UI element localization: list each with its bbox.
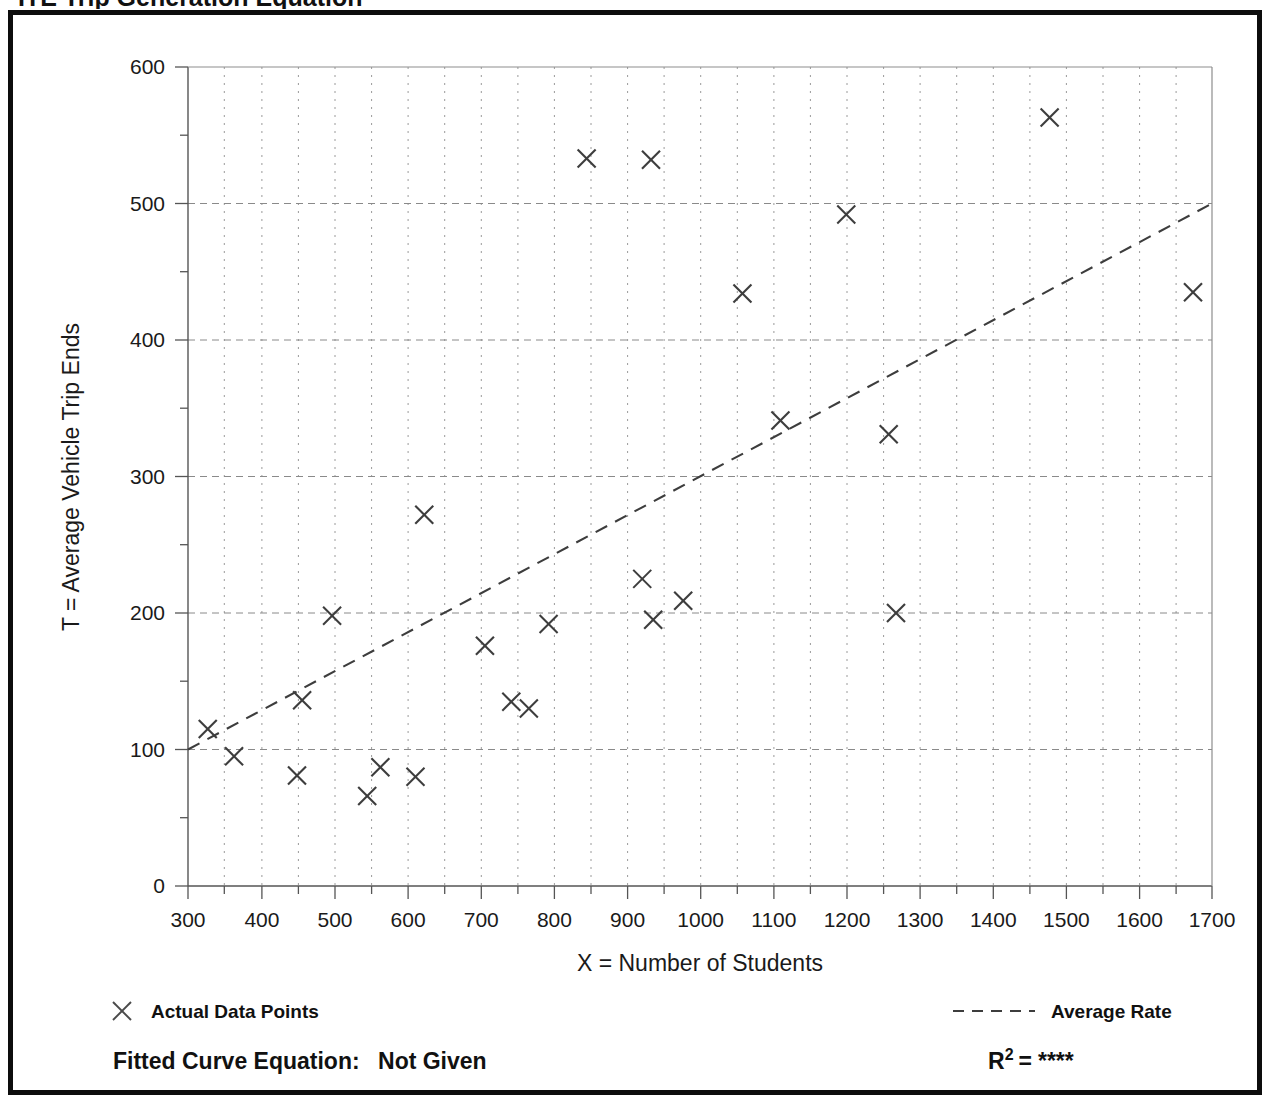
y-axis-title: T = Average Vehicle Trip Ends bbox=[58, 323, 84, 631]
x-tick-label: 800 bbox=[537, 908, 572, 931]
x-tick-label: 300 bbox=[170, 908, 205, 931]
fitted-curve-equation: Fitted Curve Equation: Not Given bbox=[113, 1048, 487, 1074]
r-squared-symbol: R bbox=[988, 1048, 1005, 1074]
x-tick-label: 600 bbox=[391, 908, 426, 931]
x-tick-label: 1600 bbox=[1116, 908, 1163, 931]
y-axis-ticks bbox=[175, 67, 188, 886]
x-tick-label: 1700 bbox=[1189, 908, 1236, 931]
fitted-curve-label: Fitted Curve Equation: bbox=[113, 1048, 360, 1074]
y-tick-label: 300 bbox=[130, 465, 165, 488]
clipped-page-heading: ITE Trip Generation Equation bbox=[18, 0, 618, 9]
x-tick-label: 1500 bbox=[1043, 908, 1090, 931]
x-tick-label: 1000 bbox=[677, 908, 724, 931]
x-tick-label: 1200 bbox=[824, 908, 871, 931]
y-tick-label: 0 bbox=[153, 874, 165, 897]
y-tick-label: 500 bbox=[130, 192, 165, 215]
legend-label-actual-data-points: Actual Data Points bbox=[151, 1001, 319, 1022]
y-tick-label: 100 bbox=[130, 738, 165, 761]
r-squared-stars: **** bbox=[1038, 1048, 1074, 1074]
x-tick-label: 700 bbox=[464, 908, 499, 931]
scatter-plot-svg: 600 500 400 300 200 100 0 bbox=[13, 15, 1267, 1100]
y-tick-label: 200 bbox=[130, 601, 165, 624]
fitted-curve-value: Not Given bbox=[378, 1048, 487, 1074]
y-axis-tick-labels: 600 500 400 300 200 100 0 bbox=[130, 55, 165, 897]
x-axis-title: X = Number of Students bbox=[577, 950, 823, 976]
x-tick-label: 1300 bbox=[897, 908, 944, 931]
x-tick-label: 900 bbox=[610, 908, 645, 931]
r-squared-exponent: 2 bbox=[1005, 1046, 1014, 1063]
x-tick-label: 1400 bbox=[970, 908, 1017, 931]
x-tick-label: 1100 bbox=[751, 908, 796, 931]
chart-canvas: 600 500 400 300 200 100 0 bbox=[13, 15, 1267, 1100]
footer: Fitted Curve Equation: Not Given R2=**** bbox=[113, 1046, 1074, 1074]
legend-label-average-rate: Average Rate bbox=[1051, 1001, 1172, 1022]
y-tick-label: 400 bbox=[130, 328, 165, 351]
r-squared-equals: = bbox=[1019, 1048, 1032, 1074]
x-axis-tick-labels: 300 400 500 600 700 800 900 1000 1100 12… bbox=[170, 908, 1235, 931]
x-marker-icon bbox=[113, 1002, 131, 1020]
r-squared-value: R2=**** bbox=[988, 1046, 1074, 1074]
legend: Actual Data Points Average Rate bbox=[113, 1001, 1172, 1022]
x-tick-label: 500 bbox=[317, 908, 352, 931]
chart-frame: 600 500 400 300 200 100 0 bbox=[8, 10, 1262, 1095]
y-tick-label: 600 bbox=[130, 55, 165, 78]
x-axis-ticks bbox=[188, 886, 1212, 899]
x-tick-label: 400 bbox=[244, 908, 279, 931]
